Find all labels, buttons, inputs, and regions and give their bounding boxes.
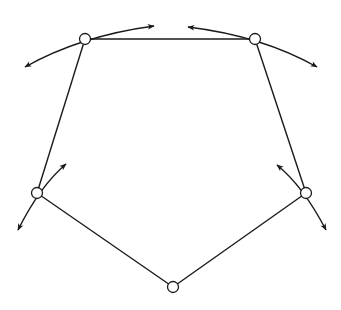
edge-right-bottom (173, 193, 306, 287)
edge-left-top-left (37, 39, 85, 193)
edge-top-right-right (255, 39, 306, 193)
joint-node-top-right (250, 34, 261, 45)
double-arrow-icon-right (277, 165, 326, 230)
edge-bottom-left (37, 193, 173, 287)
joint-node-left (32, 188, 43, 199)
pentagon-joints (32, 34, 312, 293)
pentagon-linkage-diagram (0, 0, 341, 310)
double-arrow-icon-top-left (25, 26, 154, 67)
joint-node-right (301, 188, 312, 199)
joint-node-bottom (168, 282, 179, 293)
motion-arrows (18, 26, 326, 230)
pentagon-edges (37, 39, 306, 287)
joint-node-top-left (80, 34, 91, 45)
double-arrow-icon-top-right (188, 27, 317, 67)
